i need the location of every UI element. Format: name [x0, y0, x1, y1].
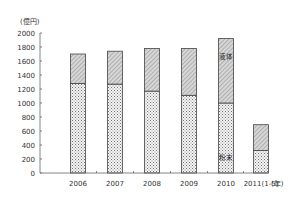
bar-segment-powder — [219, 103, 234, 173]
y-tick-label: 1400 — [17, 72, 35, 80]
bars: 液体粉末 — [71, 39, 269, 173]
bar-segment-liquid — [219, 39, 234, 103]
y-tick-label: 400 — [22, 142, 35, 150]
bar-segment-liquid — [71, 54, 86, 83]
y-axis: 0200400600800100012001400160018002000 — [17, 30, 42, 178]
bar-segment-powder — [108, 84, 123, 173]
bar-segment-liquid — [108, 51, 123, 84]
y-tick-label: 1800 — [17, 44, 35, 52]
x-tick-label: 2008 — [143, 180, 161, 188]
bar-group — [182, 48, 197, 173]
segment-label: 粉末 — [219, 153, 233, 162]
bar-segment-powder — [254, 151, 269, 173]
y-tick-label: 200 — [22, 156, 35, 164]
bar-segment-powder — [145, 91, 160, 173]
y-tick-label: 2000 — [17, 30, 35, 38]
y-tick-label: 1200 — [17, 86, 35, 94]
x-tick-label: 2007 — [106, 180, 124, 188]
y-tick-label: 600 — [22, 128, 35, 136]
bar-group — [254, 125, 269, 173]
segment-label: 液体 — [219, 52, 233, 61]
bar-segment-liquid — [182, 48, 197, 95]
y-axis-unit-label: (億円) — [20, 17, 40, 26]
y-tick-label: 800 — [22, 114, 35, 122]
x-axis-unit-label: (年) — [271, 179, 284, 188]
y-tick-label: 1600 — [17, 58, 35, 66]
y-tick-label: 1000 — [17, 100, 35, 108]
bar-segment-powder — [71, 83, 86, 173]
bar-group — [71, 54, 86, 173]
x-tick-label: 2006 — [69, 180, 87, 188]
x-tick-label: 2010 — [217, 180, 235, 188]
bar-group — [145, 48, 160, 173]
bar-segment-liquid — [254, 125, 269, 151]
x-tick-label: 2009 — [180, 180, 198, 188]
y-tick-label: 0 — [31, 170, 35, 178]
bar-group — [108, 51, 123, 173]
x-axis: 200620072008200920102011(1-5) — [40, 171, 279, 188]
stacked-bar-chart: (億円) 02004006008001000120014001600180020… — [0, 0, 298, 198]
bar-segment-liquid — [145, 48, 160, 91]
bar-segment-powder — [182, 95, 197, 173]
